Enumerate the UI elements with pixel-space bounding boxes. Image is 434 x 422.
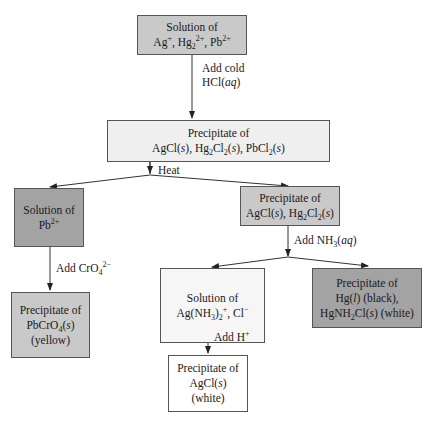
- node-pbcro4-title: Precipitate of: [20, 303, 82, 318]
- node-pbcro4-color: (yellow): [31, 333, 70, 348]
- node-precipitate-pbcro4: Precipitate of PbCrO4(s) (yellow): [11, 292, 90, 358]
- node-agnh3-title: Solution of: [187, 291, 238, 306]
- node-precip-all-title: Precipitate of: [188, 126, 250, 141]
- node-precipitate-all-chlorides: Precipitate of AgCl(s), Hg2Cl2(s), PbCl2…: [107, 120, 330, 162]
- node-start-title: Solution of: [166, 20, 217, 35]
- node-precip-all-species: AgCl(s), Hg2Cl2(s), PbCl2(s): [152, 141, 285, 156]
- node-precipitate-agcl: Precipitate of AgCl(s) (white): [168, 355, 248, 412]
- node-hg-title: Precipitate of: [336, 276, 398, 291]
- node-agcl-hg2cl2-species: AgCl(s), Hg2Cl2(s): [246, 206, 334, 221]
- node-agcl-color: (white): [191, 391, 224, 406]
- edge-label-add-nh3: Add NH3(aq): [294, 233, 356, 247]
- node-solution-pb-title: Solution of: [23, 203, 74, 218]
- node-start-solution: Solution of Ag+, Hg22+, Pb2+: [137, 15, 247, 55]
- edge-label-heat: Heat: [158, 163, 180, 177]
- node-agcl-hg2cl2-title: Precipitate of: [259, 191, 321, 206]
- node-agcl-species: AgCl(s): [189, 376, 226, 391]
- node-precipitate-agcl-hg2cl2: Precipitate of AgCl(s), Hg2Cl2(s): [240, 186, 340, 226]
- node-solution-pb: Solution of Pb2+: [14, 188, 84, 247]
- node-hg-species-1: Hg(l) (black),: [335, 291, 398, 306]
- node-pbcro4-species: PbCrO4(s): [26, 318, 74, 333]
- edge-label-add-cro4: Add CrO42−: [56, 261, 111, 275]
- edge-label-add-cold-line2: HCl(aq): [202, 75, 244, 89]
- node-solution-pb-ion: Pb2+: [39, 218, 60, 233]
- node-start-ions: Ag+, Hg22+, Pb2+: [153, 35, 230, 50]
- node-agcl-title: Precipitate of: [177, 361, 239, 376]
- node-precipitate-hg: Precipitate of Hg(l) (black), HgNH2Cl(s)…: [312, 268, 422, 328]
- node-agnh3-species: Ag(NH3)2+, Cl−: [177, 306, 249, 321]
- edge-label-add-cold-line1: Add cold: [202, 61, 244, 75]
- node-hg-species-2: HgNH2Cl(s) (white): [320, 306, 414, 321]
- edge-label-add-h: Add H+: [214, 330, 250, 344]
- edge-label-add-cold: Add cold HCl(aq): [202, 61, 244, 89]
